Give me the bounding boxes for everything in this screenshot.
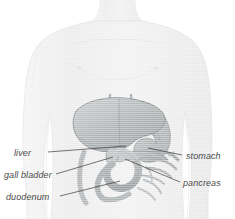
label-liver: liver (14, 148, 31, 158)
label-stomach: stomach (186, 151, 221, 161)
label-duodenum: duodenum (6, 192, 49, 202)
label-pancreas: pancreas (183, 178, 221, 188)
label-gall-bladder: gall bladder (4, 170, 52, 180)
anatomy-figure: liver gall bladder duodenum stomach panc… (0, 0, 235, 219)
